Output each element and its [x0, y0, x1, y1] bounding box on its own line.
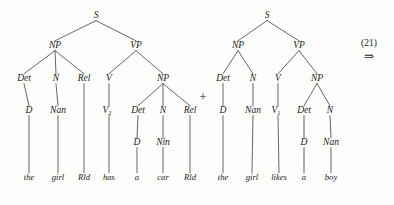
tree-node-n: N — [249, 73, 257, 83]
tree-node-np: NP — [48, 40, 61, 50]
derivation-arrow-icon: ⇒ — [364, 49, 374, 63]
tree-node-n: N — [159, 105, 167, 115]
tree-node-np: NP — [231, 40, 244, 50]
tree-terminal-girl: girl — [52, 172, 65, 182]
tree-node-nan: Nan — [49, 105, 66, 115]
tree-edge — [317, 84, 330, 106]
tree-edge — [163, 84, 190, 106]
tree-terminal-rld: Rld — [77, 172, 91, 182]
syntax-tree-figure: SNPVPDetNRelVNPDNanV2DetNRelDNinSNPVPDet… — [0, 0, 394, 205]
tree-edge — [55, 51, 56, 74]
tree-edge — [24, 84, 29, 106]
tree-edge — [278, 51, 299, 74]
tree-terminal-the: the — [218, 172, 229, 182]
tree-terminal-the: the — [24, 172, 35, 182]
tree-node-n: N — [326, 105, 334, 115]
tree-node-det: Det — [215, 73, 230, 83]
tree-edge — [238, 51, 253, 74]
tree-node-rel: Rel — [183, 105, 197, 115]
tree-terminal-a: a — [302, 172, 306, 182]
tree-node-s: S — [94, 10, 99, 20]
tree-terminal-has: has — [103, 172, 116, 182]
tree-edge — [252, 116, 253, 173]
tree-node-d: D — [133, 137, 141, 147]
tree-node-d: D — [219, 105, 227, 115]
tree-diagram-canvas: SNPVPDetNRelVNPDNanV2DetNRelDNinSNPVPDet… — [0, 0, 394, 205]
tree-edge — [238, 21, 267, 41]
tree-terminal-likes: likes — [271, 172, 287, 182]
tree-edge — [304, 84, 317, 106]
tree-edge — [267, 21, 299, 41]
tree-edge — [24, 51, 55, 74]
tree-edge — [330, 116, 331, 138]
tree-terminal-rld: Rld — [183, 172, 197, 182]
tree-node-det: Det — [130, 105, 145, 115]
tree-edge — [223, 51, 238, 74]
tree-node-d: D — [300, 137, 308, 147]
tree-nodes-layer: SNPVPDetNRelVNPDNanV2DetNRelDNinSNPVPDet… — [16, 10, 339, 147]
annotations-layer: + (21) ⇒ — [199, 38, 377, 104]
tree-node-n: N — [52, 73, 60, 83]
tree-edge — [137, 116, 138, 138]
tree-terminal-boy: boy — [325, 172, 338, 182]
tree-edge — [136, 51, 163, 74]
tree-terminals-layer: thegirlRldhasacarRldthegirllikesaboy — [24, 172, 338, 182]
tree-node-v: V — [275, 73, 282, 83]
tree-node-v: V — [106, 73, 113, 83]
equation-number: (21) — [361, 38, 377, 49]
tree-edge — [138, 84, 163, 106]
tree-terminal-girl: girl — [246, 172, 259, 182]
tree-node-rel: Rel — [77, 73, 91, 83]
tree-node-d: D — [25, 105, 33, 115]
tree-edge — [56, 84, 58, 106]
tree-edge — [55, 21, 96, 41]
tree-node-det: Det — [16, 73, 31, 83]
tree-node-vp: VP — [293, 40, 305, 50]
tree-node-v-1: V1 — [271, 105, 280, 116]
tree-node-det: Det — [296, 105, 311, 115]
tree-terminal-a: a — [135, 172, 139, 182]
tree-node-np: NP — [156, 73, 169, 83]
tree-node-s: S — [265, 10, 270, 20]
tree-edge — [109, 51, 136, 74]
tree-node-nan: Nan — [322, 137, 339, 147]
tree-edge — [299, 51, 317, 74]
tree-edge — [278, 116, 279, 173]
tree-edge — [96, 21, 136, 41]
combine-operator-plus: + — [199, 89, 206, 104]
tree-terminal-car: car — [157, 172, 169, 182]
tree-node-nan: Nan — [244, 105, 261, 115]
tree-node-np: NP — [310, 73, 323, 83]
tree-node-nin: Nin — [155, 137, 170, 147]
tree-edges-layer — [24, 21, 331, 173]
tree-edge — [55, 51, 84, 74]
tree-node-v-2: V2 — [102, 105, 111, 116]
tree-node-vp: VP — [130, 40, 142, 50]
